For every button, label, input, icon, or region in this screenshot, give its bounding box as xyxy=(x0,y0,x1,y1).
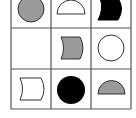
shape-matrix-puzzle xyxy=(0,0,136,118)
cell-1-1-gray-curved-shape xyxy=(61,37,83,59)
cell-1-2-white-circle xyxy=(98,35,124,61)
cell-2-1-black-circle xyxy=(57,76,85,104)
cell-0-1-white-semicircle xyxy=(57,0,85,14)
cell-0-0-gray-circle xyxy=(18,0,44,22)
cell-2-2-gray-semicircle xyxy=(98,81,125,95)
cell-2-0-white-curved-shape xyxy=(20,78,44,100)
cell-0-2-black-curved-shape xyxy=(98,0,122,20)
